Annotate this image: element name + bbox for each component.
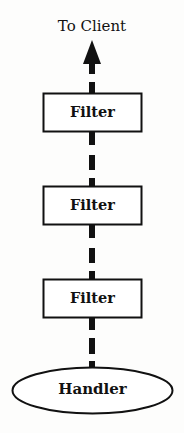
handler-label: Handler	[12, 380, 173, 398]
filter-label-1: Filter	[43, 103, 142, 120]
connector-3-handler	[89, 318, 95, 368]
to-client-label: To Client	[0, 17, 184, 35]
connector-1-2	[89, 132, 95, 186]
arrow-to-client	[83, 40, 101, 93]
diagram-canvas	[0, 0, 184, 433]
connector-2-3	[89, 225, 95, 279]
filter-label-2: Filter	[43, 196, 142, 213]
filter-label-3: Filter	[43, 289, 142, 306]
